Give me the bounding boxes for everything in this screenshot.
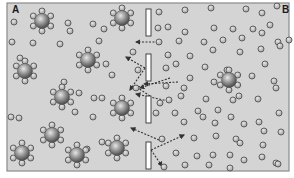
bound-water-molecule — [74, 162, 80, 168]
water-molecule — [215, 107, 221, 113]
water-molecule — [163, 65, 169, 71]
water-molecule — [258, 46, 264, 52]
solute-molecule — [81, 53, 96, 68]
water-molecule — [187, 75, 193, 81]
diagram-canvas: A B — [0, 0, 294, 178]
water-molecule — [176, 38, 182, 44]
solute-molecule — [15, 146, 30, 161]
water-molecule — [230, 26, 236, 32]
water-molecule — [30, 40, 36, 46]
water-molecule — [72, 109, 78, 115]
water-molecule — [249, 73, 255, 79]
water-molecule — [213, 133, 219, 139]
water-molecule — [228, 114, 234, 120]
water-molecule — [243, 6, 249, 12]
water-molecule — [201, 39, 207, 45]
water-molecule — [195, 108, 201, 114]
bound-water-molecule — [49, 122, 55, 128]
water-molecule — [276, 110, 282, 116]
bound-water-molecule — [119, 95, 125, 101]
solute-molecule — [35, 14, 50, 29]
water-molecule — [210, 47, 216, 53]
membrane-segment — [146, 9, 151, 36]
bound-water-molecule — [74, 142, 80, 148]
water-molecule — [109, 72, 115, 78]
solute-molecule — [18, 64, 33, 79]
water-molecule — [236, 93, 242, 99]
water-molecule — [187, 53, 193, 59]
water-molecule — [9, 39, 15, 45]
solute-molecule — [55, 90, 70, 105]
water-molecule — [277, 43, 283, 49]
bound-water-molecule — [226, 87, 232, 93]
water-molecule — [159, 136, 165, 142]
water-molecule — [163, 83, 169, 89]
water-molecule — [206, 162, 212, 168]
water-molecule — [259, 10, 265, 16]
water-molecule — [173, 150, 179, 156]
bound-water-molecule — [114, 135, 120, 141]
solute-molecule — [115, 11, 130, 26]
water-molecule — [275, 161, 281, 167]
water-molecule — [99, 95, 105, 101]
water-molecule — [101, 26, 107, 32]
water-molecule — [173, 61, 179, 67]
water-molecule — [153, 110, 159, 116]
water-molecule — [161, 164, 167, 170]
bound-water-molecule — [85, 47, 91, 53]
water-molecule — [91, 95, 97, 101]
water-molecule — [250, 26, 256, 32]
water-molecule — [182, 7, 188, 13]
water-molecule — [210, 152, 216, 158]
water-molecule — [76, 90, 82, 96]
water-molecule — [156, 39, 162, 45]
water-molecule — [200, 114, 206, 120]
water-molecule — [156, 9, 162, 15]
water-molecule — [16, 115, 22, 121]
water-molecule — [194, 153, 200, 159]
water-molecule — [212, 120, 218, 126]
water-molecule — [211, 25, 217, 31]
water-molecule — [227, 152, 233, 158]
water-molecule — [133, 85, 139, 91]
water-molecule — [130, 49, 136, 55]
water-molecule — [278, 129, 284, 135]
water-molecule — [103, 61, 109, 67]
water-molecule — [255, 96, 261, 102]
water-molecule — [203, 96, 209, 102]
water-molecule — [273, 85, 279, 91]
label-side-b: B — [282, 4, 289, 15]
water-molecule — [96, 38, 102, 44]
water-molecule — [181, 119, 187, 125]
water-molecule — [241, 157, 247, 163]
water-molecule — [172, 110, 178, 116]
bound-water-molecule — [19, 140, 25, 146]
bound-water-molecule — [19, 160, 25, 166]
water-molecule — [262, 61, 268, 67]
water-molecule — [182, 162, 188, 168]
water-molecule — [261, 128, 267, 134]
water-molecule — [182, 29, 188, 35]
bound-water-molecule — [226, 67, 232, 73]
bound-water-molecule — [85, 67, 91, 73]
membrane-segment — [146, 142, 151, 169]
water-molecule — [227, 165, 233, 171]
water-molecule — [155, 25, 161, 31]
water-molecule — [165, 52, 171, 58]
bound-water-molecule — [119, 25, 125, 31]
water-molecule — [208, 5, 214, 11]
water-molecule — [220, 37, 226, 43]
bound-water-molecule — [119, 115, 125, 121]
water-molecule — [65, 20, 71, 26]
water-molecule — [274, 3, 280, 9]
solute-molecule — [45, 128, 60, 143]
water-molecule — [239, 35, 245, 41]
bound-water-molecule — [39, 8, 45, 14]
water-molecule — [256, 119, 262, 125]
osmosis-diagram: A B — [0, 0, 294, 178]
water-molecule — [211, 79, 217, 85]
water-molecule — [99, 139, 105, 145]
water-molecule — [260, 142, 266, 148]
bound-water-molecule — [59, 84, 65, 90]
water-molecule — [202, 64, 208, 70]
